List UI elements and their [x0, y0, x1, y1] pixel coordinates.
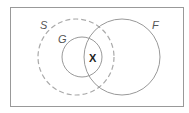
region-x-label: X [89, 52, 97, 64]
venn-diagram: S G F X [0, 0, 189, 113]
set-s-label: S [40, 19, 48, 31]
set-g-label: G [58, 33, 67, 45]
